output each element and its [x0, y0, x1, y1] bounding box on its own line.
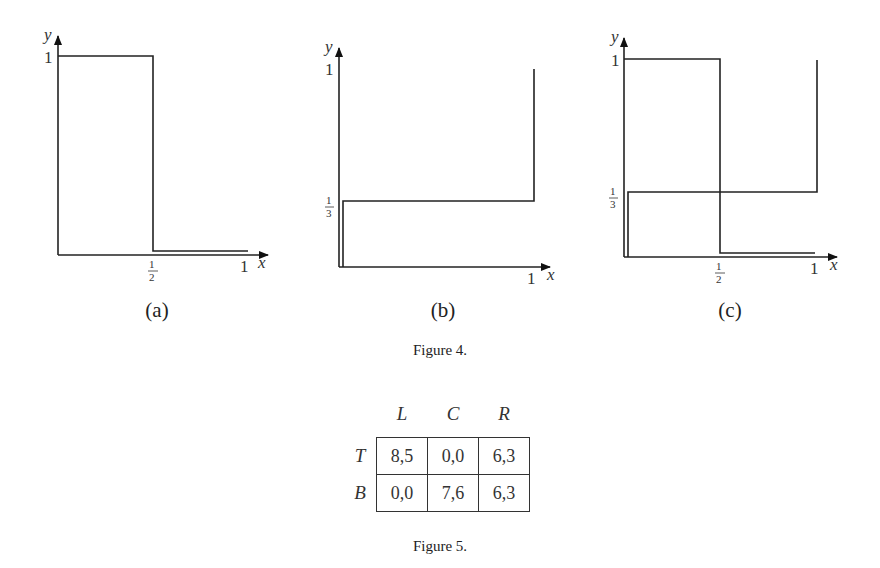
row-header-t: T — [350, 445, 370, 467]
payoff-cell: 6,3 — [479, 438, 530, 475]
svg-text:1: 1 — [326, 194, 332, 206]
payoff-cell: 0,0 — [377, 475, 428, 512]
x-axis-label: x — [257, 253, 266, 272]
y-tick-one: 1 — [611, 51, 620, 70]
x-tick-half: 1 2 — [148, 258, 158, 283]
x-axis-label: x — [829, 255, 838, 274]
svg-text:3: 3 — [610, 198, 616, 210]
table-row: 8,5 0,0 6,3 — [377, 438, 530, 475]
best-response-curve — [58, 56, 248, 251]
row-header-b: B — [350, 482, 370, 504]
panel-b — [339, 48, 550, 267]
y-tick-third: 1 3 — [325, 194, 334, 219]
svg-text:2: 2 — [716, 273, 722, 285]
y-tick-one: 1 — [325, 60, 334, 79]
svg-text:1: 1 — [610, 185, 616, 197]
y-axis-label: y — [42, 25, 52, 44]
x-tick-one: 1 — [527, 269, 536, 288]
payoff-cell: 0,0 — [428, 438, 479, 475]
figure-4-caption: Figure 4. — [340, 342, 540, 359]
column-header-c: C — [428, 403, 478, 425]
best-response-x-curve — [628, 60, 817, 257]
y-tick-one: 1 — [44, 48, 53, 67]
payoff-cell: 7,6 — [428, 475, 479, 512]
svg-text:2: 2 — [149, 271, 155, 283]
panel-a — [58, 36, 268, 255]
x-axis-label: x — [546, 265, 555, 284]
panel-c — [624, 38, 837, 257]
column-header-r: R — [479, 403, 529, 425]
panel-b-label: (b) — [413, 298, 473, 323]
column-header-l: L — [377, 403, 427, 425]
svg-text:1: 1 — [149, 258, 155, 270]
payoff-cell: 8,5 — [377, 438, 428, 475]
svg-text:3: 3 — [326, 207, 332, 219]
x-tick-one: 1 — [240, 257, 249, 276]
x-tick-one: 1 — [810, 259, 819, 278]
payoff-matrix: 8,5 0,0 6,3 0,0 7,6 6,3 — [376, 437, 530, 512]
y-axis-label: y — [323, 37, 333, 56]
best-response-y-curve — [624, 59, 815, 253]
svg-text:1: 1 — [716, 260, 722, 272]
y-tick-third: 1 3 — [609, 185, 618, 210]
payoff-cell: 6,3 — [479, 475, 530, 512]
x-tick-half: 1 2 — [715, 260, 725, 285]
panel-a-label: (a) — [127, 298, 187, 323]
table-row: 0,0 7,6 6,3 — [377, 475, 530, 512]
best-response-curve — [343, 69, 534, 267]
y-axis-label: y — [609, 27, 619, 46]
panel-c-label: (c) — [700, 298, 760, 323]
figure-5-caption: Figure 5. — [340, 538, 540, 555]
